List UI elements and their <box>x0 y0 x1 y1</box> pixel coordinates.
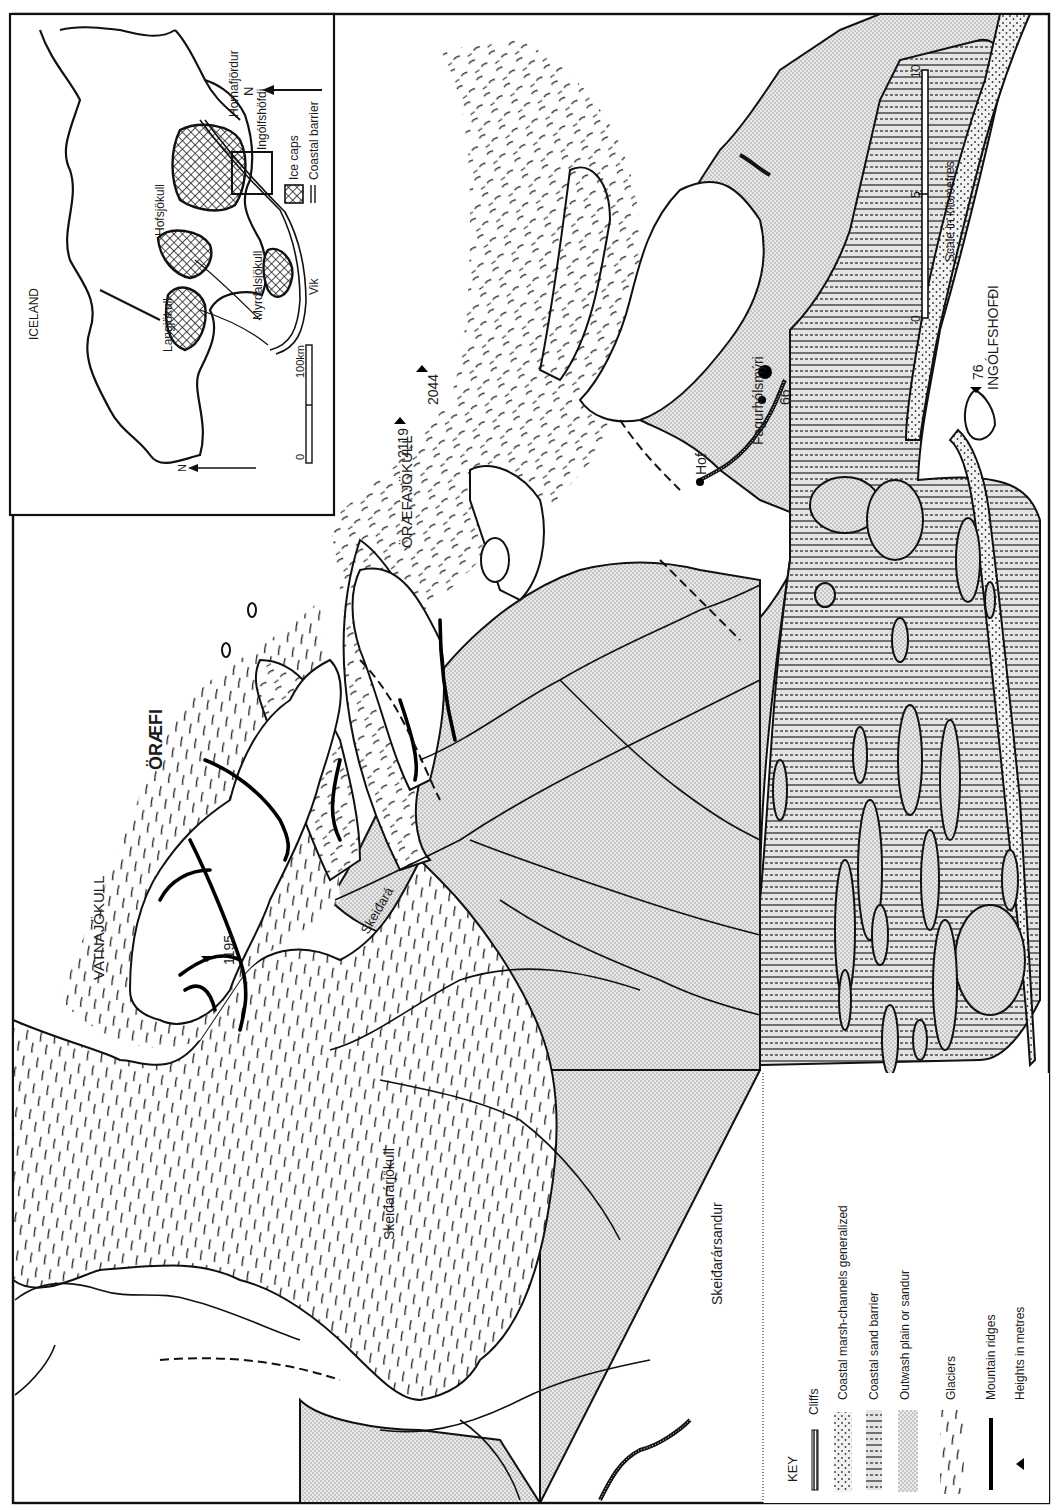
height-66: 66 <box>777 389 793 405</box>
key-marsh-swatch <box>834 1412 852 1492</box>
key-label-sandur: Outwash plain or sandur <box>898 1270 912 1400</box>
key-label-ridges: Mountain ridges <box>984 1315 998 1400</box>
key-sandur-swatch <box>898 1410 918 1492</box>
inset-label-hofsjokull: Hofsjökull <box>153 184 167 236</box>
height-1195: 1195 <box>221 935 237 965</box>
scale-tick-10: 10 <box>909 64 923 78</box>
hof-point <box>696 478 704 486</box>
label-ingolfshofdi: INGÓLFSHOFĐI <box>985 285 1001 390</box>
key-glacier-swatch <box>940 1410 964 1494</box>
scale-tick-0: 0 <box>909 315 923 322</box>
key-cliffs-swatch <box>812 1430 818 1490</box>
north-label: N <box>241 87 256 96</box>
inset-scale-label: 100km <box>294 345 306 378</box>
key-title: KEY <box>785 1456 800 1482</box>
key-label-cliffs: Cliffs <box>807 1389 821 1415</box>
inset-label-ingolfshofdi: Ingólfshöfdi <box>255 89 269 150</box>
key-label-marsh: Coastal marsh-channels generalized <box>836 1205 850 1400</box>
label-hof: Hof <box>693 453 709 475</box>
height-76: 76 <box>970 364 986 380</box>
inset-label-vik: Vik <box>307 278 321 295</box>
inset-title: ICELAND <box>27 288 41 340</box>
inset-legend-coastal-barrier: Coastal barrier <box>307 101 321 180</box>
inset-north-label: N <box>176 464 188 472</box>
inset-label-langjokull: Langjökull <box>161 298 175 352</box>
scale-title: Scale in kilometres <box>943 161 957 262</box>
label-skeidararsandur: Skeiđarársandur <box>709 1202 725 1305</box>
map-figure: ÖRÆFI VATNAJÖKULL ÖRÆFAJÖKULL Skeiđarárj… <box>0 0 1060 1510</box>
label-vatnajokull: VATNAJÖKULL <box>90 876 107 980</box>
hofsjokull-icecap <box>173 125 246 211</box>
inset-legend-icecap-swatch <box>285 185 303 203</box>
region-label-oraefi: ÖRÆFI <box>146 709 166 770</box>
key-sand-barrier-swatch <box>866 1410 882 1490</box>
inset-scale-bar <box>306 345 312 463</box>
inset-label-hornafjordur: Hornafjördur <box>227 50 241 117</box>
inset-scale-zero: 0 <box>294 454 306 460</box>
label-fagurholsmyri: Fagurhólsmýri <box>750 356 766 445</box>
inset-label-myrdalsjokull: Myrdalsjökull <box>251 251 265 320</box>
scale-tick-5: 5 <box>909 191 923 198</box>
height-2119: 2119 <box>395 428 411 458</box>
key-label-sand-barrier: Coastal sand barrier <box>867 1292 881 1400</box>
key-label-heights: Heights in metres <box>1013 1307 1027 1400</box>
nunatak <box>481 538 509 582</box>
inset-legend-icecaps: Ice caps <box>287 135 301 180</box>
label-skeidararjokull: Skeiđarárjökull <box>381 1148 397 1240</box>
key-label-glaciers: Glaciers <box>944 1356 958 1400</box>
nunatak-small-1 <box>248 603 256 617</box>
nunatak-small-2 <box>222 643 230 657</box>
height-2044: 2044 <box>425 374 441 405</box>
